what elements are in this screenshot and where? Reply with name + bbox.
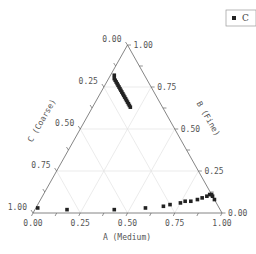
b-tick-label: 1.00: [134, 41, 153, 50]
data-points: [36, 73, 216, 211]
grid-lines: [57, 87, 199, 213]
legend: C: [226, 10, 256, 26]
grid-line: [175, 171, 199, 213]
b-tick-label: 0.75: [157, 83, 176, 92]
data-point: [162, 204, 166, 208]
data-point: [211, 194, 215, 198]
data-point: [189, 199, 193, 203]
grid-line: [57, 171, 81, 213]
legend-marker-icon: [232, 16, 236, 20]
data-point: [183, 199, 187, 203]
a-tick-label: 0.00: [23, 219, 42, 228]
c-tick-label: 0.75: [31, 161, 50, 170]
data-point: [129, 105, 133, 109]
a-tick-label: 0.25: [71, 219, 90, 228]
legend-box: [226, 10, 256, 26]
data-point: [36, 206, 40, 210]
data-point: [168, 203, 172, 207]
b-tick-label: 0.50: [181, 125, 200, 134]
b-tick-label: 0.25: [204, 167, 223, 176]
data-point: [65, 208, 69, 212]
c-axis-label: C (Coarse): [26, 98, 58, 144]
c-tick-label: 0.00: [102, 35, 121, 44]
b-tick-label: 0.00: [228, 209, 247, 218]
grid-line: [104, 87, 175, 213]
data-point: [112, 208, 116, 212]
legend-label: C: [242, 13, 249, 23]
data-point: [112, 73, 116, 77]
c-tick-label: 1.00: [8, 203, 27, 212]
a-tick-label: 0.50: [118, 219, 137, 228]
ternary-chart: 0.000.000.000.250.250.250.500.500.500.75…: [0, 0, 256, 254]
data-point: [196, 198, 200, 202]
a-axis-label: A (Medium): [103, 233, 151, 242]
data-point: [179, 201, 183, 205]
data-point: [213, 198, 217, 202]
c-tick-label: 0.25: [79, 77, 98, 86]
a-tick-label: 1.00: [212, 219, 231, 228]
c-tick-label: 0.50: [55, 119, 74, 128]
data-point: [144, 206, 148, 210]
a-tick-label: 0.75: [165, 219, 184, 228]
data-point: [200, 196, 204, 200]
